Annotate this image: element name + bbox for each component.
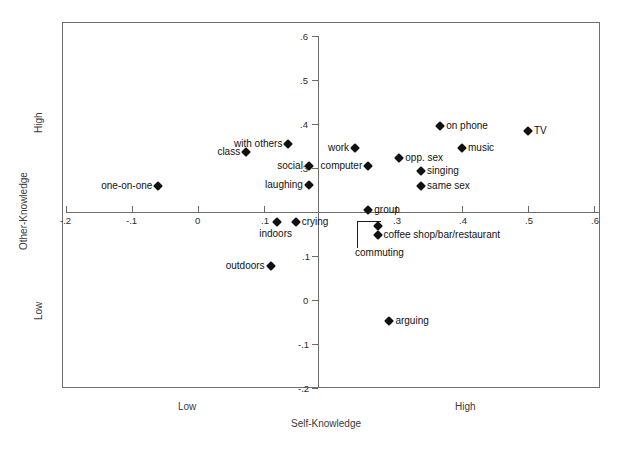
y-tick — [312, 300, 318, 301]
data-point-label: coffee shop/bar/restaurant — [384, 230, 501, 240]
y-tick — [312, 124, 318, 125]
x-tick — [594, 206, 595, 212]
data-point-label: class — [217, 147, 240, 157]
plot-frame — [62, 22, 600, 388]
x-tick — [198, 206, 199, 212]
x-tick-label: .4 — [459, 216, 467, 226]
y-tick — [312, 168, 318, 169]
x-tick-label: .1 — [261, 216, 269, 226]
x-tick-label: 0 — [195, 216, 200, 226]
commuting-callout-leader — [357, 221, 381, 248]
x-tick — [66, 206, 67, 212]
x-axis-low-label: Low — [178, 401, 196, 412]
y-tick — [312, 36, 318, 37]
y-axis-low-label: Low — [33, 302, 44, 320]
y-tick-label: -.2 — [298, 384, 309, 394]
data-point-label: same sex — [427, 181, 470, 191]
x-axis-line — [66, 212, 600, 213]
y-tick-label: 0 — [303, 296, 308, 306]
data-point-label: social — [277, 161, 303, 171]
y-tick-label: .5 — [300, 76, 308, 86]
y-tick — [312, 344, 318, 345]
data-point-label: singing — [427, 166, 459, 176]
data-point-label: computer — [321, 161, 363, 171]
y-tick-label: .6 — [300, 32, 308, 42]
x-axis-high-label: High — [455, 401, 476, 412]
data-point-label: outdoors — [226, 261, 265, 271]
y-tick-label: .1 — [302, 252, 310, 262]
x-tick-label: .5 — [525, 216, 533, 226]
y-tick — [312, 256, 318, 257]
data-point-label: opp. sex — [405, 153, 443, 163]
y-axis-high-label: High — [33, 112, 44, 133]
data-point-label: one-on-one — [101, 181, 152, 191]
x-tick-label: .3 — [393, 216, 401, 226]
data-point-label: on phone — [446, 121, 488, 131]
y-tick — [312, 388, 318, 389]
x-tick — [528, 206, 529, 212]
x-tick-label: -.2 — [60, 216, 71, 226]
scatter-plot-figure: -.2 -.1 0 .1 .3 .4 .5 .6 .6 .5 .4 .3 .1 … — [0, 0, 623, 449]
y-tick-label: .4 — [300, 120, 308, 130]
x-tick — [462, 206, 463, 212]
y-tick-label: -.1 — [298, 340, 309, 350]
x-tick-label: -.1 — [126, 216, 137, 226]
x-tick — [132, 206, 133, 212]
x-axis-title: Self-Knowledge — [291, 418, 361, 429]
data-point-label: laughing — [265, 180, 303, 190]
data-point-label: work — [328, 143, 349, 153]
data-point-label: with others — [234, 139, 282, 149]
data-point-label: music — [468, 143, 494, 153]
commuting-callout-label: commuting — [355, 248, 404, 258]
data-point-label: indoors — [259, 229, 292, 239]
y-tick — [312, 80, 318, 81]
data-point-label: group — [374, 205, 400, 215]
y-axis-line — [318, 36, 319, 388]
data-point-label: arguing — [395, 316, 428, 326]
data-point-label: crying — [302, 217, 329, 227]
x-tick — [264, 206, 265, 212]
y-axis-title: Other-Knowledge — [18, 172, 29, 250]
x-tick-label: .6 — [591, 216, 599, 226]
data-point-label: TV — [534, 126, 547, 136]
